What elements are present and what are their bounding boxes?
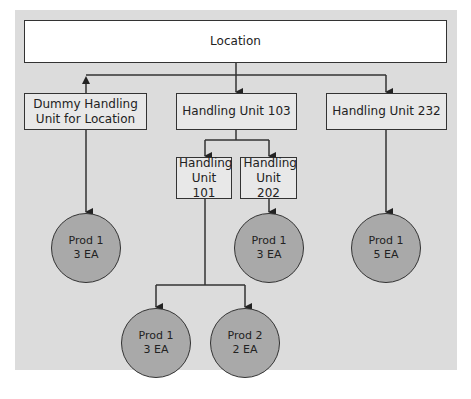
product-name: Prod 1 <box>139 329 174 343</box>
product-name: Prod 2 <box>228 329 263 343</box>
handling-unit-103-node: Handling Unit 103 <box>176 93 297 130</box>
node-label: Handling Unit 103 <box>182 104 290 119</box>
node-label: Dummy Handling Unit for Location <box>31 97 141 127</box>
product-node: Prod 1 3 EA <box>51 213 121 283</box>
handling-unit-232-node: Handling Unit 232 <box>326 93 447 130</box>
product-qty: 2 EA <box>233 343 258 357</box>
location-label: Location <box>210 34 261 49</box>
dummy-handling-unit-node: Dummy Handling Unit for Location <box>24 93 147 130</box>
node-label: Handling Unit 232 <box>332 104 440 119</box>
product-qty: 3 EA <box>144 343 169 357</box>
node-label: Handling Unit 101 <box>179 156 229 201</box>
handling-unit-101-node: Handling Unit 101 <box>176 157 232 199</box>
product-name: Prod 1 <box>252 234 287 248</box>
location-node: Location <box>24 20 447 63</box>
product-qty: 3 EA <box>257 248 282 262</box>
product-qty: 5 EA <box>374 248 399 262</box>
product-node: Prod 1 5 EA <box>351 213 421 283</box>
product-name: Prod 1 <box>369 234 404 248</box>
node-label: Handling Unit 202 <box>244 156 294 201</box>
product-qty: 3 EA <box>74 248 99 262</box>
product-node: Prod 1 3 EA <box>234 213 304 283</box>
product-node: Prod 1 3 EA <box>121 308 191 378</box>
handling-unit-202-node: Handling Unit 202 <box>240 157 297 199</box>
product-node: Prod 2 2 EA <box>210 308 280 378</box>
arrow-up-icon <box>82 76 90 84</box>
product-name: Prod 1 <box>69 234 104 248</box>
